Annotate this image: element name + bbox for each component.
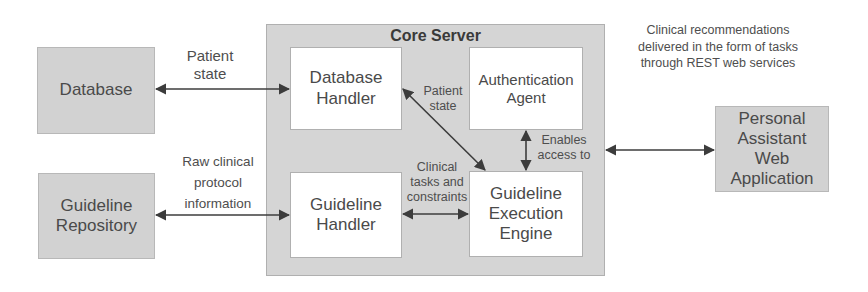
database-handler-box: Database Handler bbox=[290, 47, 402, 130]
edge-label-raw-clinical-protocol: Raw clinical protocol information bbox=[172, 152, 264, 215]
database-label: Database bbox=[60, 80, 133, 100]
database-box: Database bbox=[37, 47, 155, 134]
edge-label-clinical-recommendations: Clinical recommendations delivered in th… bbox=[628, 22, 808, 72]
guideline-execution-engine-box: Guideline Execution Engine bbox=[469, 171, 583, 257]
personal-assistant-label: Personal Assistant Web Application bbox=[722, 109, 822, 189]
guideline-handler-label: Guideline Handler bbox=[305, 195, 387, 235]
authentication-agent-box: Authentication Agent bbox=[469, 47, 583, 130]
edge-label-patient-state-inner: Patient state bbox=[420, 84, 466, 114]
guideline-handler-box: Guideline Handler bbox=[290, 172, 402, 258]
edge-label-enables-access: Enables access to bbox=[533, 133, 595, 163]
guideline-repository-label: Guideline Repository bbox=[49, 196, 144, 236]
guideline-repository-box: Guideline Repository bbox=[38, 173, 155, 259]
database-handler-label: Database Handler bbox=[305, 68, 387, 108]
personal-assistant-box: Personal Assistant Web Application bbox=[715, 106, 829, 192]
edge-label-clinical-tasks: Clinical tasks and constraints bbox=[404, 160, 470, 205]
authentication-agent-label: Authentication Agent bbox=[474, 71, 578, 106]
edge-label-patient-state: Patient state bbox=[170, 47, 250, 83]
core-server-title: Core Server bbox=[267, 27, 604, 46]
guideline-execution-engine-label: Guideline Execution Engine bbox=[484, 184, 568, 244]
